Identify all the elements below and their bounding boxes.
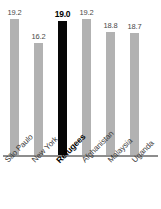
bar-value-label-afghanistan: 19.2 bbox=[80, 8, 94, 17]
bar-value-label-malaysia: 18.8 bbox=[104, 21, 118, 30]
bar-group-sao-paulo[interactable]: 19.2 bbox=[10, 19, 19, 156]
bar-chart: 19.2 16.2 19.0 19.2 18.8 18.7 São bbox=[0, 0, 161, 209]
bar-value-label-uganda: 18.7 bbox=[128, 22, 142, 31]
bar-sao-paulo[interactable] bbox=[10, 19, 19, 156]
x-axis-category-labels: São Paulo New York Refugees Afghanistan … bbox=[0, 156, 161, 209]
bar-refugees[interactable] bbox=[58, 21, 67, 156]
bar-group-uganda[interactable]: 18.7 bbox=[130, 33, 139, 156]
bar-value-label-new-york: 16.2 bbox=[32, 32, 46, 41]
bar-uganda[interactable] bbox=[130, 33, 139, 156]
bar-group-refugees[interactable]: 19.0 bbox=[58, 21, 67, 156]
bar-value-label-sao-paulo: 19.2 bbox=[8, 8, 22, 17]
bar-value-label-refugees: 19.0 bbox=[55, 9, 71, 19]
bar-group-new-york[interactable]: 16.2 bbox=[34, 43, 43, 156]
bar-new-york[interactable] bbox=[34, 43, 43, 156]
